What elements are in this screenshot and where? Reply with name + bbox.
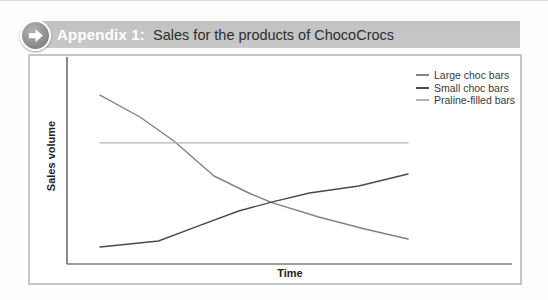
series-line-small-choc-bars — [100, 174, 408, 247]
header-title: Sales for the products of ChocoCrocs — [153, 27, 394, 43]
legend-label: Praline-filled bars — [434, 94, 515, 107]
legend-item-praline-filled-bars: Praline-filled bars — [416, 94, 515, 107]
appendix-label: Appendix 1: — [57, 26, 145, 43]
legend-item-large-choc-bars: Large choc bars — [416, 69, 515, 82]
legend-label: Large choc bars — [434, 69, 509, 82]
x-axis-label: Time — [277, 267, 302, 279]
y-axis-label: Sales volume — [45, 121, 57, 191]
arrow-right-icon — [20, 20, 51, 51]
legend-swatch — [416, 99, 429, 101]
legend-item-small-choc-bars: Small choc bars — [416, 82, 515, 95]
legend-swatch — [416, 87, 429, 89]
legend-swatch — [416, 74, 429, 76]
chart-panel: Sales volumeTime Large choc barsSmall ch… — [28, 54, 522, 285]
appendix-header: Appendix 1: Sales for the products of Ch… — [30, 21, 520, 48]
arrow-glyph — [25, 25, 46, 46]
series-line-large-choc-bars — [100, 95, 408, 239]
legend-label: Small choc bars — [434, 82, 509, 95]
chart-legend: Large choc barsSmall choc barsPraline-fi… — [416, 69, 515, 107]
